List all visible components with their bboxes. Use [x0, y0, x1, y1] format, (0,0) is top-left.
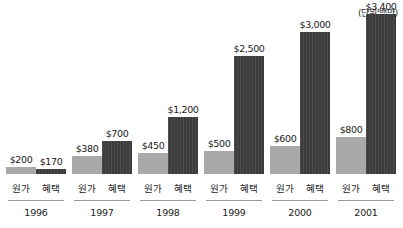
- bar-cost-1999[interactable]: $500: [204, 151, 234, 174]
- series-name-benefit-1998: 혜택: [168, 181, 198, 195]
- bar-benefit-2001[interactable]: $3,400: [366, 14, 396, 174]
- group-rule-1998: [140, 200, 196, 201]
- group-rule-2000: [272, 200, 328, 201]
- bar-benefit-1998[interactable]: $1,200: [168, 117, 198, 174]
- year-label-1998: 1998: [138, 207, 198, 218]
- series-name-benefit-2001: 혜택: [366, 181, 396, 195]
- value-label-benefit-2001: $3,400: [366, 1, 397, 12]
- series-name-cost-1998: 원가: [138, 181, 168, 195]
- cost-benefit-bar-chart: (단위:백만) $200 $170 원가 혜택: [0, 0, 403, 228]
- bar-benefit-1996[interactable]: $170: [36, 169, 66, 174]
- series-name-benefit-1997: 혜택: [102, 181, 132, 195]
- year-group-2000: $600 $3,000 원가 혜택 2000: [270, 0, 330, 228]
- year-group-1996: $200 $170 원가 혜택 1996: [6, 0, 66, 228]
- series-names-2000: 원가 혜택: [270, 181, 330, 195]
- group-rule-1996: [8, 200, 64, 201]
- year-group-2001: $800 $3,400 원가 혜택 2001: [336, 0, 396, 228]
- value-label-cost-1996: $200: [10, 154, 33, 165]
- series-name-benefit-1996: 혜택: [36, 181, 66, 195]
- series-name-benefit-1999: 혜택: [234, 181, 264, 195]
- bars-1998: $450 $1,200: [138, 14, 198, 174]
- value-label-benefit-1999: $2,500: [234, 43, 265, 54]
- value-label-benefit-2000: $3,000: [300, 19, 331, 30]
- value-label-cost-1999: $500: [208, 138, 231, 149]
- year-group-1998: $450 $1,200 원가 혜택 1998: [138, 0, 198, 228]
- value-label-benefit-1996: $170: [40, 156, 63, 167]
- series-name-cost-2001: 원가: [336, 181, 366, 195]
- series-name-cost-1996: 원가: [6, 181, 36, 195]
- value-label-benefit-1998: $1,200: [168, 104, 199, 115]
- bars-1997: $380 $700: [72, 14, 132, 174]
- year-label-1997: 1997: [72, 207, 132, 218]
- group-rule-1999: [206, 200, 262, 201]
- series-names-1997: 원가 혜택: [72, 181, 132, 195]
- bars-2001: $800 $3,400: [336, 14, 396, 174]
- value-label-cost-2000: $600: [274, 133, 297, 144]
- bar-cost-1998[interactable]: $450: [138, 153, 168, 174]
- bar-cost-1996[interactable]: $200: [6, 167, 36, 174]
- bar-cost-1997[interactable]: $380: [72, 156, 102, 174]
- series-names-2001: 원가 혜택: [336, 181, 396, 195]
- group-rule-2001: [338, 200, 394, 201]
- bar-benefit-1999[interactable]: $2,500: [234, 56, 264, 174]
- bars-2000: $600 $3,000: [270, 14, 330, 174]
- value-label-cost-1997: $380: [76, 143, 99, 154]
- value-label-benefit-1997: $700: [106, 128, 129, 139]
- bar-benefit-1997[interactable]: $700: [102, 141, 132, 174]
- bar-cost-2000[interactable]: $600: [270, 146, 300, 174]
- series-names-1999: 원가 혜택: [204, 181, 264, 195]
- value-label-cost-2001: $800: [340, 124, 363, 135]
- bar-benefit-2000[interactable]: $3,000: [300, 32, 330, 174]
- series-name-benefit-2000: 혜택: [300, 181, 330, 195]
- value-label-cost-1998: $450: [142, 140, 165, 151]
- year-label-1999: 1999: [204, 207, 264, 218]
- series-name-cost-1999: 원가: [204, 181, 234, 195]
- year-group-1999: $500 $2,500 원가 혜택 1999: [204, 0, 264, 228]
- year-label-2000: 2000: [270, 207, 330, 218]
- series-name-cost-2000: 원가: [270, 181, 300, 195]
- plot-area: $200 $170 원가 혜택 1996 $3: [0, 0, 403, 228]
- series-name-cost-1997: 원가: [72, 181, 102, 195]
- year-label-1996: 1996: [6, 207, 66, 218]
- bars-1996: $200 $170: [6, 14, 66, 174]
- group-rule-1997: [74, 200, 130, 201]
- series-names-1998: 원가 혜택: [138, 181, 198, 195]
- year-label-2001: 2001: [336, 207, 396, 218]
- bar-cost-2001[interactable]: $800: [336, 137, 366, 174]
- year-group-1997: $380 $700 원가 혜택 1997: [72, 0, 132, 228]
- series-names-1996: 원가 혜택: [6, 181, 66, 195]
- bars-1999: $500 $2,500: [204, 14, 264, 174]
